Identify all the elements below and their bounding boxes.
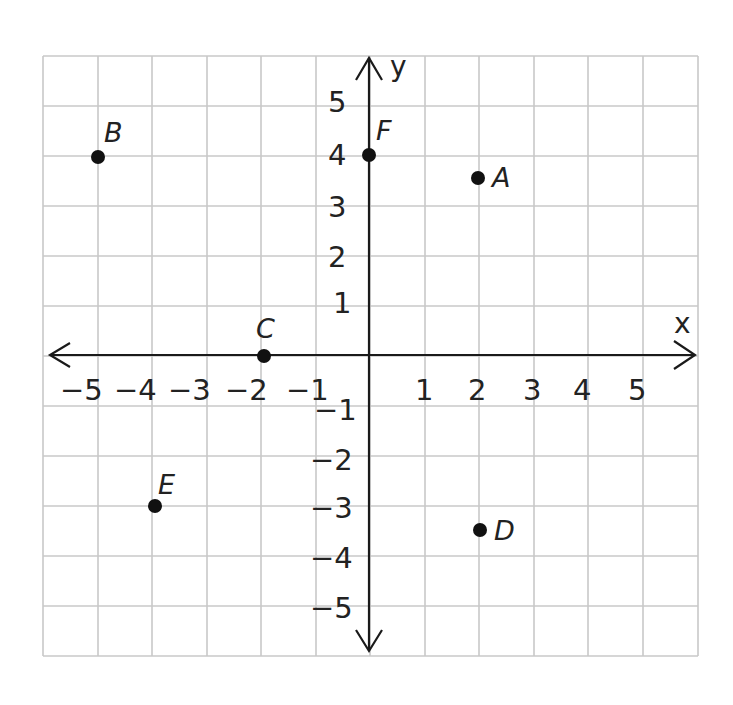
x-axis-label: x [674, 307, 691, 340]
x-axis: x [50, 307, 695, 369]
x-tick-neg2: −2 [225, 373, 268, 407]
y-tick-neg1: −1 [314, 393, 357, 427]
x-tick-3: 3 [523, 373, 541, 407]
y-tick-neg5: −5 [310, 591, 353, 625]
y-tick-3: 3 [328, 190, 346, 224]
x-tick-4: 4 [573, 373, 591, 407]
svg-text:E: E [158, 469, 175, 500]
x-tick-2: 2 [468, 373, 486, 407]
point-f: F [362, 115, 392, 162]
x-tick-5: 5 [628, 373, 646, 407]
point-a: A [471, 162, 510, 193]
svg-text:D: D [494, 515, 515, 546]
y-tick-1: 1 [333, 286, 351, 320]
y-tick-neg2: −2 [310, 443, 353, 477]
coordinate-plane: x y −5 −4 −3 −2 −1 1 2 3 4 5 5 4 3 2 1 −… [0, 0, 733, 705]
y-tick-neg4: −4 [310, 541, 353, 575]
x-tick-neg5: −5 [60, 373, 103, 407]
y-tick-5: 5 [328, 85, 346, 119]
svg-text:A: A [490, 162, 510, 193]
svg-text:F: F [376, 115, 392, 146]
points: A B C D E F [91, 115, 515, 546]
y-tick-neg3: −3 [310, 491, 353, 525]
x-tick-neg4: −4 [114, 373, 157, 407]
svg-text:C: C [256, 313, 275, 344]
svg-text:B: B [104, 117, 123, 148]
point-b: B [91, 117, 123, 164]
y-tick-2: 2 [328, 240, 346, 274]
x-tick-1: 1 [415, 373, 433, 407]
y-tick-4: 4 [328, 138, 346, 172]
y-axis-label: y [390, 50, 407, 83]
x-tick-neg3: −3 [168, 373, 211, 407]
